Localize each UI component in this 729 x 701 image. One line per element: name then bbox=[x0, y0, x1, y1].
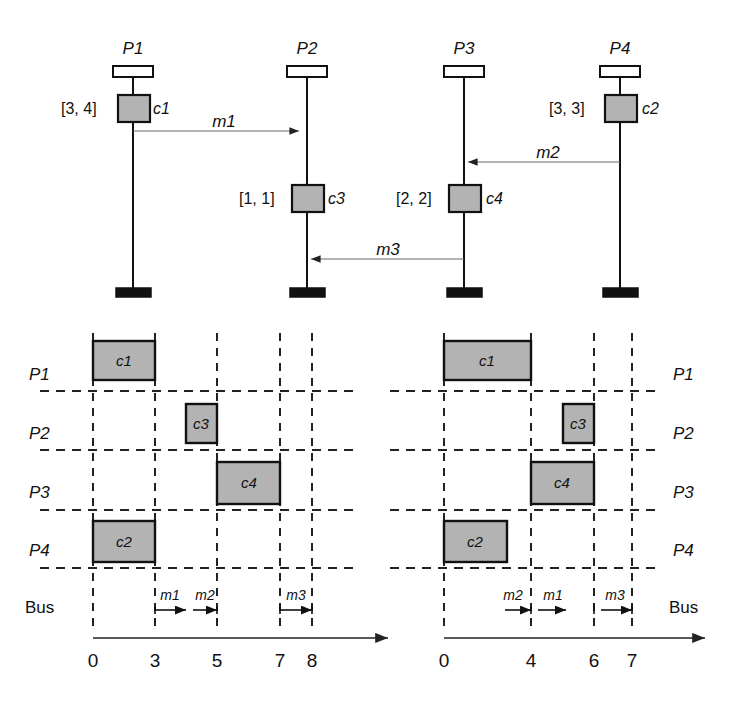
activation-interval-c3: [1, 1] bbox=[239, 191, 275, 207]
gantt-right-row-label-P1: P1 bbox=[673, 366, 694, 383]
lifeline-P3 bbox=[444, 66, 484, 297]
sequence-process-label-P1: P1 bbox=[123, 40, 144, 57]
gantt-right-bus-label-m2: m2 bbox=[503, 588, 522, 602]
gantt-left-tick-3: 3 bbox=[150, 651, 161, 670]
sequence-process-label-P2: P2 bbox=[297, 40, 318, 57]
gantt-right-task-label-c4: c4 bbox=[554, 475, 570, 490]
activation-interval-c2: [3, 3] bbox=[549, 101, 585, 117]
sequence-process-label-P3: P3 bbox=[454, 40, 475, 57]
activation-c3 bbox=[292, 185, 324, 212]
gantt-left-bus-arrows bbox=[155, 606, 312, 614]
gantt-right-tick-6: 6 bbox=[589, 651, 600, 670]
gantt-right-task-label-c1: c1 bbox=[479, 353, 495, 368]
gantt-left-row-label-P4: P4 bbox=[29, 542, 50, 559]
gantt-left-task-label-c1: c1 bbox=[116, 353, 132, 368]
lifeline-P4 bbox=[600, 66, 640, 297]
gantt-right-bus-label-m3: m3 bbox=[605, 588, 624, 602]
activation-interval-c1: [3, 4] bbox=[61, 101, 97, 117]
gantt-right-bus-label-m1: m1 bbox=[543, 588, 562, 602]
gantt-left-tick-7: 7 bbox=[275, 651, 286, 670]
gantt-left-tick-0: 0 bbox=[88, 651, 99, 670]
activation-c4 bbox=[449, 185, 481, 212]
message-label-m1: m1 bbox=[212, 113, 236, 130]
gantt-right-row-label-Bus: Bus bbox=[669, 599, 698, 616]
gantt-left-row-label-P3: P3 bbox=[29, 484, 50, 501]
message-label-m3: m3 bbox=[376, 241, 400, 258]
sequence-process-label-P4: P4 bbox=[610, 40, 631, 57]
gantt-left-tick-5: 5 bbox=[212, 651, 223, 670]
gantt-left-task-label-c3: c3 bbox=[193, 416, 209, 431]
gantt-right-tick-7: 7 bbox=[627, 651, 638, 670]
gantt-left-task-label-c4: c4 bbox=[241, 475, 257, 490]
lifeline-P2 bbox=[287, 66, 327, 297]
message-label-m2: m2 bbox=[536, 144, 560, 161]
activation-label-c4: c4 bbox=[486, 191, 503, 207]
activation-label-c1: c1 bbox=[153, 101, 170, 117]
gantt-right-row-label-P4: P4 bbox=[673, 542, 694, 559]
activation-label-c3: c3 bbox=[328, 191, 345, 207]
gantt-left-bus-label-m3: m3 bbox=[286, 588, 305, 602]
gantt-left-row-label-P1: P1 bbox=[29, 366, 50, 383]
gantt-left-bus-label-m1: m1 bbox=[160, 588, 179, 602]
gantt-left-row-label-P2: P2 bbox=[29, 425, 50, 442]
gantt-right-row-label-P2: P2 bbox=[673, 425, 694, 442]
gantt-right-tick-4: 4 bbox=[526, 651, 537, 670]
figure-canvas: P1 P2 P3 P4 [3, 4] c1 [1, 1] c3 [2, 2] c… bbox=[0, 0, 729, 701]
gantt-right-bus-arrows bbox=[505, 606, 632, 614]
gantt-right-tick-0: 0 bbox=[439, 651, 450, 670]
lifeline-P1 bbox=[113, 66, 153, 297]
gantt-left-row-label-Bus: Bus bbox=[25, 599, 54, 616]
activation-c2 bbox=[605, 95, 637, 122]
activation-c1 bbox=[118, 95, 150, 122]
gantt-right-row-separators bbox=[390, 391, 662, 568]
gantt-right-row-label-P3: P3 bbox=[673, 484, 694, 501]
activation-interval-c4: [2, 2] bbox=[396, 191, 432, 207]
gantt-left-task-label-c2: c2 bbox=[116, 534, 132, 549]
gantt-left-tick-8: 8 bbox=[307, 651, 318, 670]
gantt-right-task-label-c3: c3 bbox=[570, 416, 586, 431]
gantt-right-task-label-c2: c2 bbox=[467, 534, 483, 549]
activation-label-c2: c2 bbox=[642, 101, 659, 117]
gantt-left-bus-label-m2: m2 bbox=[195, 588, 214, 602]
